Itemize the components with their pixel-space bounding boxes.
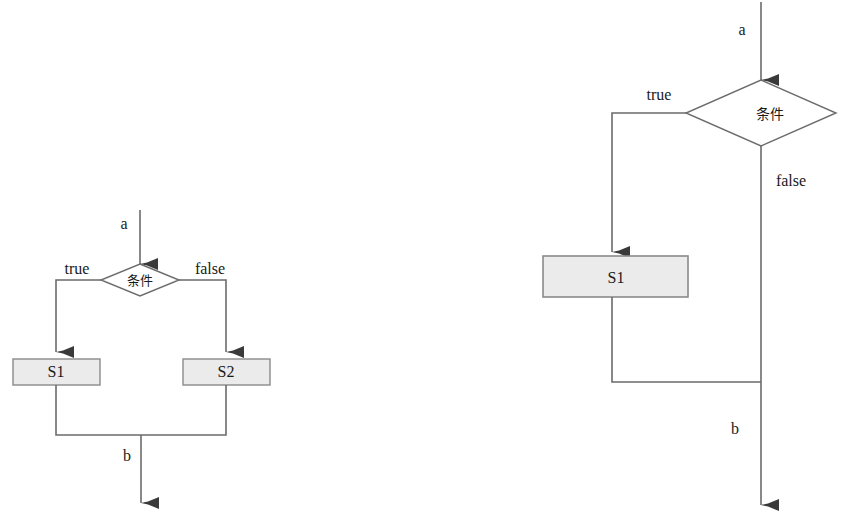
right-true-label: true [647,86,672,103]
right-diagram-if-then: a 条件 true false S1 b [543,2,836,505]
left-false-edge [179,280,226,352]
left-exit-label-b: b [123,447,131,464]
right-true-edge [612,113,686,252]
right-entry-label-a: a [738,21,745,38]
left-process-label-s1: S1 [48,363,65,380]
left-true-edge [56,280,101,352]
diagram-canvas: a 条件 true false S1 S2 b [0,0,841,527]
left-decision-label: 条件 [127,273,153,288]
left-entry-label-a: a [120,215,127,232]
left-process-label-s2: S2 [218,363,235,380]
right-exit-label-b: b [731,420,739,437]
left-diagram-if-else: a 条件 true false S1 S2 b [13,210,270,503]
flowchart-figure: a 条件 true false S1 S2 b [0,0,841,527]
left-true-label: true [65,260,90,277]
right-process-label-s1: S1 [608,269,625,286]
right-merge-edge [612,297,761,382]
left-merge-edge [56,385,226,435]
right-false-label: false [776,172,806,189]
right-decision-label: 条件 [756,106,784,122]
left-false-label: false [195,260,225,277]
